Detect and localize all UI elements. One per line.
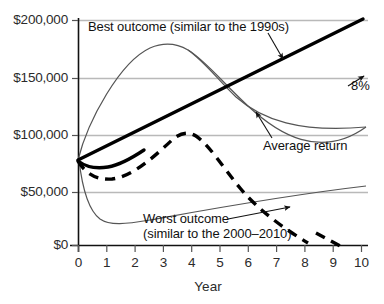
worst-outcome-arrow: [228, 207, 290, 219]
y-tick-label-50000: $50,000: [0, 184, 68, 199]
best-outcome-label: Best outcome (similar to the 1990s): [88, 19, 289, 34]
y-tick-label-0: $0: [0, 237, 68, 252]
average-return-arrow: [256, 112, 272, 138]
x-tick-label-5: 5: [208, 255, 232, 270]
eight-percent-label: 8%: [351, 78, 370, 93]
best-outcome-arrow: [268, 33, 283, 59]
x-tick-label-0: 0: [67, 255, 91, 270]
x-tick-label-9: 9: [321, 255, 345, 270]
x-tick-label-6: 6: [236, 255, 260, 270]
y-tick-label-100000: $100,000: [0, 127, 68, 142]
x-tick-label-2: 2: [123, 255, 147, 270]
x-tick-label-3: 3: [151, 255, 175, 270]
investment-projection-chart: $200,000 $150,000 $100,000 $50,000 $0 0 …: [0, 0, 384, 304]
x-tick-label-1: 1: [95, 255, 119, 270]
worst-outcome-label-line2: (similar to the 2000–2010): [143, 226, 291, 241]
x-tick-label-8: 8: [293, 255, 317, 270]
average-return-label: Average return: [263, 138, 347, 153]
x-tick-label-7: 7: [265, 255, 289, 270]
x-axis-title: Year: [178, 279, 238, 294]
x-tick-label-4: 4: [180, 255, 204, 270]
y-tick-label-200000: $200,000: [0, 12, 68, 27]
x-tick-label-10: 10: [350, 255, 374, 270]
y-tick-label-150000: $150,000: [0, 70, 68, 85]
worst-outcome-label-line1: Worst outcome: [143, 211, 229, 226]
